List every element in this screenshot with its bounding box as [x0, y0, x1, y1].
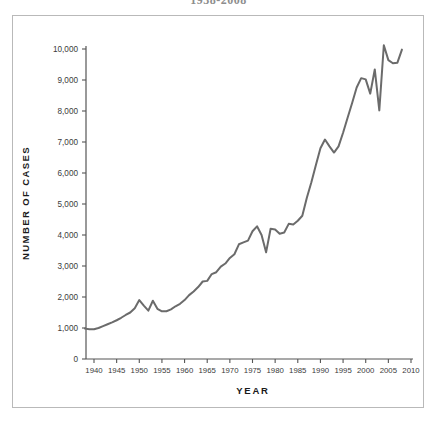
y-tick-label: 4,000 — [58, 231, 79, 240]
y-tick-label: 5,000 — [58, 200, 79, 209]
x-axis-ticks: 1940194519501955196019651970197519801985… — [85, 359, 420, 375]
figure-title: 1938-2008 — [0, 0, 437, 6]
x-tick-label: 2000 — [357, 366, 375, 375]
figure-root: 1938-2008 01,0002,0003,0004,0005,0006,00… — [0, 0, 437, 425]
x-tick-label: 2010 — [402, 366, 420, 375]
x-tick-label: 1960 — [176, 366, 194, 375]
y-tick-label: 2,000 — [58, 293, 79, 302]
x-tick-label: 2005 — [380, 366, 398, 375]
x-tick-label: 1955 — [153, 366, 171, 375]
x-tick-label: 1980 — [266, 366, 284, 375]
y-axis-ticks: 01,0002,0003,0004,0005,0006,0007,0008,00… — [53, 45, 86, 364]
x-tick-label: 1985 — [289, 366, 307, 375]
y-tick-label: 0 — [73, 355, 78, 364]
x-tick-label: 1970 — [221, 366, 239, 375]
y-tick-label: 7,000 — [58, 138, 79, 147]
x-tick-label: 1975 — [244, 366, 262, 375]
data-series-line — [85, 45, 402, 329]
y-tick-label: 6,000 — [58, 169, 79, 178]
y-tick-label: 8,000 — [58, 107, 79, 116]
x-tick-label: 1940 — [85, 366, 103, 375]
x-axis-label: YEAR — [236, 385, 270, 396]
y-tick-label: 9,000 — [58, 76, 79, 85]
chart-frame: 01,0002,0003,0004,0005,0006,0007,0008,00… — [12, 15, 424, 408]
x-tick-label: 1965 — [199, 366, 217, 375]
y-tick-label: 10,000 — [53, 45, 78, 54]
y-tick-label: 1,000 — [58, 324, 79, 333]
x-tick-label: 1990 — [312, 366, 330, 375]
line-chart-plot: 01,0002,0003,0004,0005,0006,0007,0008,00… — [13, 16, 423, 407]
y-tick-label: 3,000 — [58, 262, 79, 271]
x-tick-label: 1995 — [334, 366, 352, 375]
x-tick-label: 1950 — [131, 366, 149, 375]
y-axis-label: NUMBER OF CASES — [20, 146, 31, 260]
x-tick-label: 1945 — [108, 366, 126, 375]
